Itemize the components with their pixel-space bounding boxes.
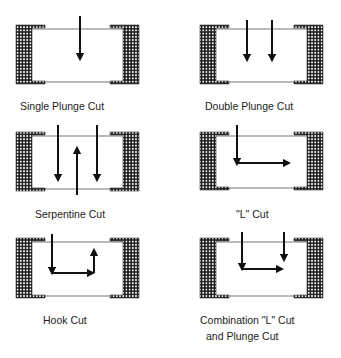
label-combination-cut-line1: Combination "L" Cut (200, 314, 294, 326)
right-terminal-hatch (294, 238, 323, 298)
right-terminal-hatch (110, 238, 139, 298)
right-terminal-hatch (110, 132, 139, 191)
label-serpentine-cut: Serpentine Cut (35, 208, 105, 220)
label-combination-cut-line2: and Plunge Cut (206, 330, 278, 342)
left-terminal-hatch (200, 25, 229, 84)
label-l-cut: "L" Cut (236, 208, 269, 220)
label-double-plunge-cut: Double Plunge Cut (205, 100, 293, 112)
label-hook-cut: Hook Cut (43, 314, 87, 326)
right-terminal-hatch (294, 132, 323, 190)
panel-single-plunge (16, 16, 139, 84)
panel-double-plunge (200, 20, 323, 84)
label-single-plunge-cut: Single Plunge Cut (20, 100, 104, 112)
panel-hook (16, 234, 139, 298)
right-terminal-hatch (110, 25, 139, 84)
left-terminal-hatch (16, 25, 45, 84)
left-terminal-hatch (200, 238, 229, 298)
panel-serpentine (16, 125, 139, 195)
right-terminal-hatch (294, 25, 323, 84)
panel-l-cut (200, 125, 323, 190)
panel-combination (200, 232, 323, 298)
left-terminal-hatch (16, 132, 45, 191)
trim-cut-diagram (0, 0, 341, 358)
left-terminal-hatch (16, 238, 45, 298)
left-terminal-hatch (200, 132, 229, 190)
